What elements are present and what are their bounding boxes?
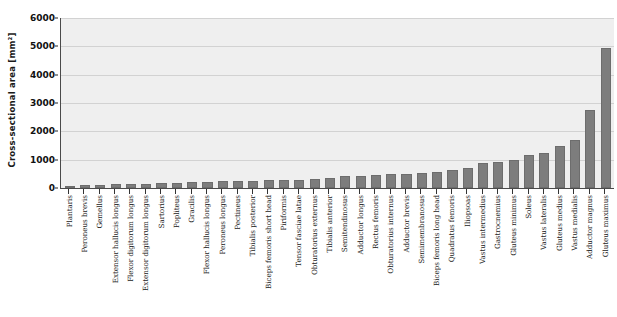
- y-axis-tick-mark: [55, 131, 58, 132]
- y-axis-tick-mark: [55, 159, 58, 160]
- bar-slot: [230, 18, 245, 188]
- y-axis-tick-label: 4000: [30, 70, 55, 80]
- x-label-slot: Adductor brevis: [398, 195, 413, 315]
- x-label-slot: Extensor hallucis longus: [107, 195, 122, 315]
- bar-slot: [353, 18, 368, 188]
- x-axis-tick-mark: [482, 189, 483, 194]
- x-axis-tick-label: Obturatorius externus: [309, 195, 318, 275]
- x-tick-slot: [474, 189, 489, 194]
- bar: [432, 172, 442, 188]
- x-axis-tick-label: Biceps femoris short head: [263, 195, 272, 289]
- x-label-slot: Biceps femoris long head: [429, 195, 444, 315]
- bar-slot: [108, 18, 123, 188]
- x-label-slot: Peroneus brevis: [76, 195, 91, 315]
- x-axis-tick-label: Extensor hallucis longus: [110, 195, 119, 283]
- y-axis-tick-label: 2000: [30, 126, 55, 136]
- bar-slot: [292, 18, 307, 188]
- x-tick-slot: [321, 189, 336, 194]
- bar: [156, 183, 166, 188]
- x-axis-tick-mark: [497, 189, 498, 194]
- x-axis-tick-mark: [390, 189, 391, 194]
- bar-slot: [123, 18, 138, 188]
- x-label-slot: Gastrocnemius: [490, 195, 505, 315]
- bar-slot: [491, 18, 506, 188]
- x-tick-slot: [444, 189, 459, 194]
- bar-slot: [521, 18, 536, 188]
- bar: [111, 184, 121, 188]
- y-axis-tick-mark: [55, 74, 58, 75]
- x-label-slot: Iliopsoas: [459, 195, 474, 315]
- bar-slot: [322, 18, 337, 188]
- x-tick-slot: [61, 189, 76, 194]
- x-axis-tick-mark: [359, 189, 360, 194]
- x-label-slot: Soleus: [520, 195, 535, 315]
- x-tick-slot: [551, 189, 566, 194]
- x-label-slot: Rectus femoris: [367, 195, 382, 315]
- y-axis-tick-label: 6000: [30, 13, 55, 23]
- bar-slot: [460, 18, 475, 188]
- x-axis-tick-label: Gluteus medius: [554, 195, 563, 251]
- bar: [294, 180, 304, 189]
- x-tick-slot: [92, 189, 107, 194]
- x-tick-slot: [76, 189, 91, 194]
- bar-series: [61, 18, 614, 188]
- x-axis-tick-mark: [191, 189, 192, 194]
- x-axis-tick-label: Flexor hallucis longus: [202, 195, 211, 274]
- x-axis-tick-mark: [589, 189, 590, 194]
- x-label-slot: Tibialis anterior: [321, 195, 336, 315]
- x-label-slot: Gluteus maximus: [597, 195, 612, 315]
- bar-slot: [475, 18, 490, 188]
- x-label-slot: Peroneus longus: [214, 195, 229, 315]
- x-tick-slot: [337, 189, 352, 194]
- x-axis-tick-label: Semimembranosus: [416, 195, 425, 264]
- bar-slot: [169, 18, 184, 188]
- x-axis-tick-label: Vastus lateralis: [539, 195, 548, 250]
- x-axis-tick-mark: [237, 189, 238, 194]
- x-tick-slot: [260, 189, 275, 194]
- bar-slot: [430, 18, 445, 188]
- x-tick-slot: [107, 189, 122, 194]
- x-tick-slot: [536, 189, 551, 194]
- x-label-slot: Vastus medialis: [566, 195, 581, 315]
- x-axis-tick-mark: [99, 189, 100, 194]
- bar-slot: [583, 18, 598, 188]
- x-label-slot: Quadratus femoris: [444, 195, 459, 315]
- x-tick-slot: [229, 189, 244, 194]
- x-axis-tick-label: Tibialis anterior: [324, 195, 333, 253]
- bar-slot: [154, 18, 169, 188]
- bar-slot: [185, 18, 200, 188]
- x-axis-tick-label: Flexor digitorum longus: [125, 195, 134, 282]
- x-tick-slot: [306, 189, 321, 194]
- x-axis-tick-label: Biceps femoris long head: [432, 195, 441, 286]
- x-axis-tick-mark: [68, 189, 69, 194]
- x-label-slot: Vastus lateralis: [536, 195, 551, 315]
- x-axis-tick-label: Plantaris: [64, 195, 73, 227]
- bar: [524, 155, 534, 188]
- x-label-slot: Extensor digitorum longus: [138, 195, 153, 315]
- x-tick-slot: [413, 189, 428, 194]
- bar: [509, 160, 519, 188]
- x-tick-slot: [275, 189, 290, 194]
- x-tick-slot: [429, 189, 444, 194]
- bar: [187, 182, 197, 188]
- x-axis-tick-label: Adductor brevis: [401, 195, 410, 253]
- bar: [172, 183, 182, 188]
- bar-slot: [200, 18, 215, 188]
- y-axis-tick-label: 3000: [30, 98, 55, 108]
- bar-slot: [506, 18, 521, 188]
- bar-slot: [537, 18, 552, 188]
- bar-slot: [139, 18, 154, 188]
- bar: [80, 185, 90, 188]
- x-label-slot: Gracilis: [184, 195, 199, 315]
- x-label-slot: Pectineus: [229, 195, 244, 315]
- x-tick-slot: [352, 189, 367, 194]
- bar-slot: [414, 18, 429, 188]
- x-tick-slot: [520, 189, 535, 194]
- x-axis-tick-label: Pectineus: [233, 195, 242, 230]
- y-axis-tick-label: 5000: [30, 41, 55, 51]
- x-axis-tick-mark: [558, 189, 559, 194]
- x-axis-tick-labels: PlantarisPeroneus brevisGemellusExtensor…: [60, 195, 613, 315]
- x-axis-tick-mark: [160, 189, 161, 194]
- bar: [233, 181, 243, 188]
- x-axis-tick-label: Obturatorius internus: [386, 195, 395, 274]
